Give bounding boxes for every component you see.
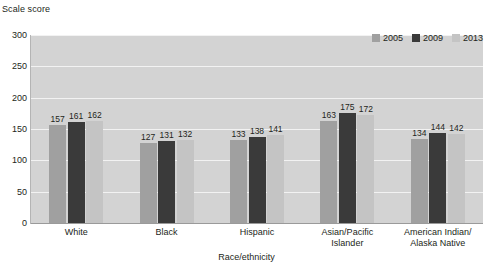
legend-label: 2013 <box>463 33 483 43</box>
bar <box>411 139 428 223</box>
bar <box>158 141 175 223</box>
x-axis-group-label: American Indian/ Alaska Native <box>393 227 483 249</box>
y-axis-tick-labels: 050100150200250300 <box>0 0 27 279</box>
gridline <box>31 66 483 67</box>
y-axis-tick-label: 100 <box>1 155 27 165</box>
bar <box>230 140 247 223</box>
y-axis-tick-label: 50 <box>1 187 27 197</box>
y-axis-tick-label: 150 <box>1 124 27 134</box>
bar-value-label: 142 <box>444 123 469 133</box>
legend-item: 2005 <box>372 33 403 43</box>
bar <box>68 122 85 223</box>
legend-swatch <box>452 34 460 42</box>
legend-label: 2009 <box>423 33 443 43</box>
bar-chart: Scale score 050100150200250300 WhiteBlac… <box>0 0 493 279</box>
x-axis-line <box>31 223 483 224</box>
bar <box>86 121 103 223</box>
y-axis-tick-label: 300 <box>1 30 27 40</box>
y-axis-tick-label: 250 <box>1 61 27 71</box>
y-axis-tick-label: 0 <box>1 218 27 228</box>
legend-label: 2005 <box>383 33 403 43</box>
bar <box>249 137 266 223</box>
legend-swatch <box>372 34 380 42</box>
bar <box>320 121 337 223</box>
x-axis-group-label: Black <box>121 227 211 238</box>
bar <box>448 134 465 223</box>
bar <box>49 125 66 223</box>
bar <box>267 135 284 223</box>
legend: 200520092013 <box>369 31 486 45</box>
gridline <box>31 98 483 99</box>
bar-value-label: 132 <box>173 129 198 139</box>
bar <box>339 113 356 223</box>
bar-value-label: 141 <box>263 124 288 134</box>
x-axis-group-label: Asian/Pacific Islander <box>302 227 392 249</box>
bar <box>140 143 157 223</box>
y-axis-tick-label: 200 <box>1 93 27 103</box>
bar-value-label: 172 <box>353 104 378 114</box>
x-axis-group-label: White <box>31 227 121 238</box>
x-axis-group-label: Hispanic <box>212 227 302 238</box>
bar <box>429 133 446 223</box>
bar <box>177 140 194 223</box>
legend-swatch <box>412 34 420 42</box>
bar <box>357 115 374 223</box>
legend-item: 2013 <box>452 33 483 43</box>
legend-item: 2009 <box>412 33 443 43</box>
x-axis-title: Race/ethnicity <box>0 252 493 262</box>
bar-value-label: 162 <box>82 110 107 120</box>
